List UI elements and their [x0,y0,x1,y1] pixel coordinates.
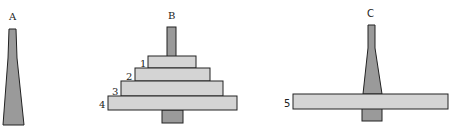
peg-c-label: C [367,8,374,19]
peg-b-base [162,110,183,123]
peg-a-group: A [3,11,24,125]
disk-2-label: 2 [126,71,132,82]
disk-5 [293,94,448,109]
peg-c [363,25,382,94]
peg-a-label: A [8,11,17,22]
disk-4 [108,96,237,110]
disk-1-label: 1 [140,58,146,69]
peg-b-label: B [168,10,175,21]
disk-2 [135,68,210,81]
peg-a [3,29,24,125]
peg-c-group: C 5 [284,8,448,121]
hanoi-diagram: A B 1 2 3 4 C 5 [0,0,473,135]
disk-5-label: 5 [284,98,290,109]
disk-4-label: 4 [99,99,105,110]
disk-3-label: 3 [112,86,118,97]
peg-b-group: B 1 2 3 4 [99,10,237,123]
peg-b-top [167,27,176,57]
disk-3 [121,81,223,96]
disk-1 [148,56,196,68]
peg-c-base [362,108,382,121]
